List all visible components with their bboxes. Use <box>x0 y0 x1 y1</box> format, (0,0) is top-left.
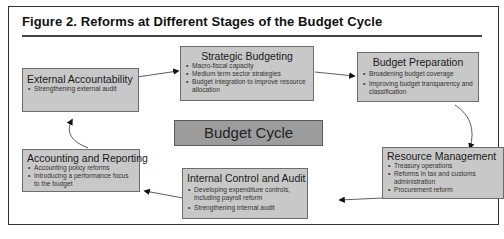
stage-title: Accounting and Reporting <box>27 152 135 164</box>
stage-item: Medium term sector strategies <box>185 70 309 78</box>
stage-title: Resource Management <box>387 150 499 162</box>
stage-budget-preparation: Budget Preparation Broadening budget cov… <box>357 52 479 102</box>
stage-item: Budget integration to improve resource a… <box>185 78 309 94</box>
arrow-prep-to-resource <box>455 105 472 148</box>
stage-item: Treasury operations <box>387 162 499 170</box>
stage-title: Strategic Budgeting <box>185 50 309 62</box>
arrow-resource-to-internal <box>340 198 382 200</box>
budget-cycle-label: Budget Cycle <box>174 120 323 146</box>
stage-external-accountability: External Accountability Strengthening ex… <box>22 68 139 112</box>
stage-title: Internal Control and Audit <box>187 172 303 184</box>
stage-title: External Accountability <box>27 73 134 85</box>
arrow-strategic-to-prep <box>315 72 354 76</box>
stage-item: Procurement reform <box>387 186 499 194</box>
stage-item: Macro-fiscal capacity <box>185 62 309 70</box>
stage-item: Developing expenditure controls, includi… <box>187 186 303 202</box>
stage-accounting-reporting: Accounting and Reporting Accounting poli… <box>22 149 140 192</box>
stage-strategic-budgeting: Strategic Budgeting Macro-fiscal capacit… <box>180 46 314 101</box>
arrow-accounting-to-external <box>69 120 88 148</box>
stage-item: Improving budget transparency and classi… <box>362 80 474 96</box>
stage-internal-control-audit: Internal Control and Audit Developing ex… <box>182 168 308 219</box>
stage-item: Accounting policy reforms <box>27 164 135 172</box>
arrow-internal-to-accounting <box>145 191 183 198</box>
stage-resource-management: Resource Management Treasury operations … <box>382 147 504 199</box>
stage-item: Strengthening external audit <box>27 85 134 93</box>
stage-item: Introducing a performance focus to the b… <box>27 172 135 188</box>
stage-item: Strengthening internal audit <box>187 204 303 212</box>
stage-title: Budget Preparation <box>362 56 474 68</box>
stage-item: Broadening budget coverage <box>362 70 474 78</box>
stage-item: Reforms in tax and customs administratio… <box>387 170 499 186</box>
arrow-external-to-strategic <box>137 71 178 77</box>
